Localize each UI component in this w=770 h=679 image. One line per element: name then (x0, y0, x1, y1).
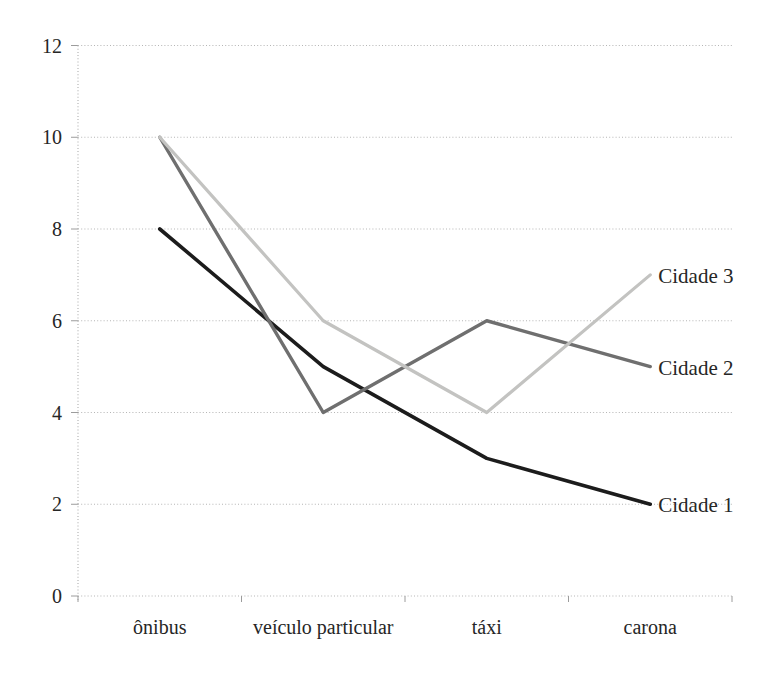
y-tick-label: 12 (42, 35, 62, 57)
line-chart-figure: 024681012ônibusveículo particulartáxicar… (0, 0, 770, 679)
series-line-cidade-2 (160, 137, 651, 412)
x-category-label-taxi: táxi (472, 616, 502, 638)
series-label-cidade-2: Cidade 2 (658, 356, 733, 380)
y-tick-label: 0 (52, 585, 62, 607)
series-label-cidade-1: Cidade 1 (658, 493, 733, 517)
x-category-label-veiculo-particular: veículo particular (253, 616, 394, 639)
series-label-cidade-3: Cidade 3 (658, 264, 733, 288)
y-tick-label: 4 (52, 402, 62, 424)
y-tick-label: 10 (42, 126, 62, 148)
y-tick-label: 2 (52, 493, 62, 515)
x-category-label-carona: carona (624, 616, 677, 638)
y-tick-label: 8 (52, 218, 62, 240)
series-line-cidade-3 (160, 137, 651, 412)
x-category-label-onibus: ônibus (133, 616, 187, 638)
y-tick-label: 6 (52, 310, 62, 332)
line-chart-svg: 024681012ônibusveículo particulartáxicar… (0, 0, 770, 679)
